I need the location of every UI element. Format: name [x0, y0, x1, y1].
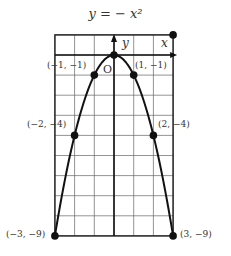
origin-label: O: [103, 63, 112, 76]
y-axis-label: y: [122, 36, 129, 50]
point-label-neg1: (−1, −1): [47, 60, 86, 70]
point-label-1: (1, −1): [135, 60, 167, 70]
point-label-2: (2, −4): [158, 119, 190, 129]
point-label-neg3: (−3, −9): [6, 229, 45, 239]
x-axis-label: x: [161, 36, 168, 50]
point-label-neg2: (−2, −4): [27, 119, 66, 129]
point-label-3: (3, −9): [180, 229, 212, 239]
